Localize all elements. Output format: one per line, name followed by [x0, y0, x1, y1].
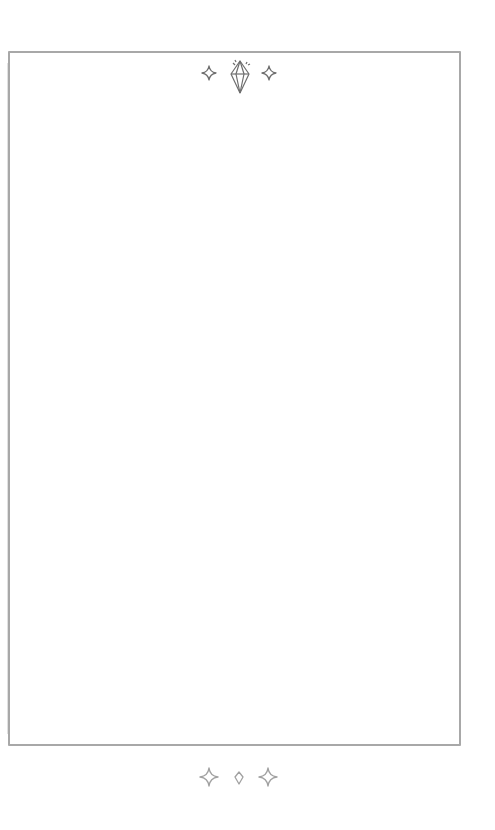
sparkle-icon [201, 65, 217, 81]
small-diamond-icon [233, 771, 245, 785]
page-content [20, 105, 450, 735]
diamond-gem-icon [225, 56, 255, 96]
sparkle-icon [261, 65, 277, 81]
sparkle-icon [199, 767, 219, 787]
sparkle-icon [258, 767, 278, 787]
header-ornament [195, 56, 285, 96]
footer-ornament [195, 763, 285, 793]
